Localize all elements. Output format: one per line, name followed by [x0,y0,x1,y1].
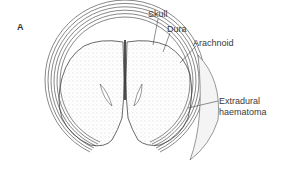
right-hemisphere [126,41,192,146]
label-haematoma: haematoma [219,107,267,117]
label-skull: Skull [148,9,168,19]
label-arachnoid: Arachnoid [193,38,234,48]
label-extradural: Extradural [219,96,260,106]
left-hemisphere [59,41,124,146]
panel-letter: A [17,22,24,32]
label-dura: Dura [167,24,187,34]
extradural-haematoma-diagram: A Skull Dura Arachnoid Extradural haemat… [0,0,290,184]
brain-cross-section [0,0,290,184]
